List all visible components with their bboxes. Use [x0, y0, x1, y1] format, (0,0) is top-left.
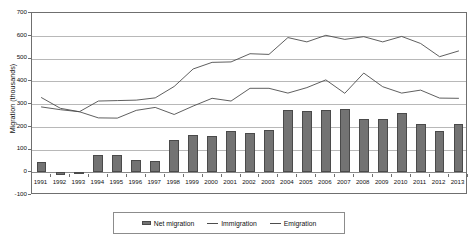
x-tick-mark-7 — [164, 174, 165, 177]
x-tick-label-2004: 2004 — [277, 178, 296, 185]
immigration-line — [41, 73, 458, 118]
x-tick-mark-17 — [353, 174, 354, 177]
x-tick-label-2006: 2006 — [315, 178, 334, 185]
y-tick-label-400: 400 — [17, 77, 27, 83]
x-tick-label-2013: 2013 — [448, 178, 467, 185]
x-tick-label-1999: 1999 — [183, 178, 202, 185]
y-tick-label-0: 0 — [24, 168, 27, 174]
bar-2008 — [359, 119, 369, 172]
gridline-600 — [32, 36, 466, 37]
legend-label-emigration: Emigration — [284, 220, 317, 227]
legend-label-net-migration: Net migration — [154, 220, 194, 227]
x-axis: 1991199219931994199519961997199819992000… — [31, 174, 467, 204]
bar-2003 — [264, 130, 274, 173]
x-tick-mark-6 — [145, 174, 146, 177]
x-tick-label-1997: 1997 — [145, 178, 164, 185]
x-tick-label-1996: 1996 — [126, 178, 145, 185]
x-tick-mark-0 — [31, 174, 32, 177]
x-tick-label-2012: 2012 — [429, 178, 448, 185]
x-tick-label-2001: 2001 — [221, 178, 240, 185]
x-tick-mark-14 — [296, 174, 297, 177]
gridline-400 — [32, 81, 466, 82]
x-tick-label-1992: 1992 — [50, 178, 69, 185]
y-tick-label-500: 500 — [17, 54, 27, 60]
plot-area — [31, 12, 467, 194]
y-tick-label-100: 100 — [17, 145, 27, 151]
x-tick-label-2008: 2008 — [353, 178, 372, 185]
bar-swatch-icon — [142, 221, 151, 225]
legend-label-immigration: Immigration — [221, 220, 257, 227]
bar-1991 — [37, 162, 47, 172]
y-axis-title: Migration (thousands) — [9, 39, 16, 159]
emigration-line — [41, 35, 458, 111]
gridline-500 — [32, 59, 466, 60]
x-tick-label-2011: 2011 — [410, 178, 429, 185]
x-tick-label-2003: 2003 — [258, 178, 277, 185]
x-tick-mark-5 — [126, 174, 127, 177]
x-tick-mark-11 — [240, 174, 241, 177]
x-tick-mark-21 — [429, 174, 430, 177]
bar-2005 — [302, 111, 312, 172]
x-tick-mark-12 — [258, 174, 259, 177]
x-tick-mark-19 — [391, 174, 392, 177]
y-tick-label-300: 300 — [17, 100, 27, 106]
x-tick-mark-22 — [448, 174, 449, 177]
x-tick-label-1995: 1995 — [107, 178, 126, 185]
y-tick-label-700: 700 — [17, 9, 27, 15]
bar-1999 — [188, 135, 198, 172]
y-tick-label--100: -100 — [15, 191, 27, 197]
bar-2007 — [340, 109, 350, 173]
y-tick-label-200: 200 — [17, 123, 27, 129]
x-tick-label-2002: 2002 — [240, 178, 259, 185]
bar-2010 — [397, 113, 407, 173]
line-swatch-icon — [270, 223, 281, 224]
x-tick-mark-8 — [183, 174, 184, 177]
x-tick-mark-13 — [277, 174, 278, 177]
bar-1995 — [112, 155, 122, 173]
legend-item-net-migration: Net migration — [142, 220, 194, 227]
x-tick-label-1991: 1991 — [31, 178, 50, 185]
legend-item-emigration: Emigration — [270, 220, 317, 227]
x-tick-mark-4 — [107, 174, 108, 177]
x-tick-mark-2 — [69, 174, 70, 177]
gridline-300 — [32, 104, 466, 105]
bar-1998 — [169, 140, 179, 172]
x-tick-label-2000: 2000 — [202, 178, 221, 185]
x-tick-mark-16 — [334, 174, 335, 177]
bar-2013 — [454, 124, 464, 172]
line-swatch-icon — [207, 223, 218, 224]
x-tick-mark-1 — [50, 174, 51, 177]
x-tick-label-1994: 1994 — [88, 178, 107, 185]
bar-1994 — [93, 155, 103, 173]
x-tick-mark-23 — [467, 174, 468, 177]
x-tick-label-1993: 1993 — [69, 178, 88, 185]
bar-2004 — [283, 110, 293, 172]
bar-2001 — [226, 131, 236, 172]
migration-chart: 7006005004003002001000-100 Migration (th… — [0, 0, 474, 242]
legend-item-immigration: Immigration — [207, 220, 257, 227]
bar-2002 — [245, 133, 255, 172]
x-tick-mark-18 — [372, 174, 373, 177]
x-tick-mark-20 — [410, 174, 411, 177]
x-tick-label-2009: 2009 — [372, 178, 391, 185]
x-tick-label-2005: 2005 — [296, 178, 315, 185]
y-tick-label-600: 600 — [17, 32, 27, 38]
x-tick-label-2007: 2007 — [334, 178, 353, 185]
x-tick-mark-3 — [88, 174, 89, 177]
bar-2006 — [321, 110, 331, 172]
bar-2011 — [416, 124, 426, 172]
chart-legend: Net migration Immigration Emigration — [113, 212, 345, 234]
bar-1996 — [131, 160, 141, 173]
x-tick-mark-15 — [315, 174, 316, 177]
x-tick-mark-10 — [221, 174, 222, 177]
bar-2012 — [435, 131, 445, 173]
bar-1997 — [150, 161, 160, 172]
bar-2000 — [207, 136, 217, 172]
x-tick-label-2010: 2010 — [391, 178, 410, 185]
bar-2009 — [378, 119, 388, 172]
x-tick-label-1998: 1998 — [164, 178, 183, 185]
x-tick-mark-9 — [202, 174, 203, 177]
